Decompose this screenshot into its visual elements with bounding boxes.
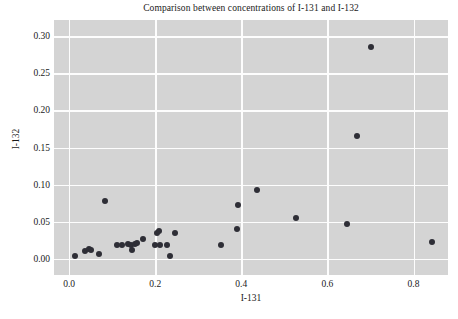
data-point (368, 44, 374, 50)
data-point (102, 198, 108, 204)
gridline-vertical (241, 20, 242, 275)
x-tick-label: 0.4 (221, 279, 261, 289)
chart-title: Comparison between concentrations of I-1… (54, 3, 448, 13)
data-point (157, 242, 163, 248)
x-tick-label: 0.6 (307, 279, 347, 289)
data-point (140, 236, 146, 242)
y-tick-label: 0.00 (6, 254, 50, 264)
data-point (234, 226, 240, 232)
x-axis-label: I-131 (54, 293, 448, 303)
x-axis-tick-labels: 0.00.20.40.60.8 (54, 279, 448, 293)
data-point (235, 202, 241, 208)
y-tick-label: 0.30 (6, 31, 50, 41)
data-point (119, 242, 125, 248)
data-point (429, 239, 435, 245)
gridline-horizontal (54, 259, 448, 260)
data-point (344, 221, 350, 227)
gridline-horizontal (54, 185, 448, 186)
plot-area (54, 20, 448, 275)
data-point (293, 215, 299, 221)
x-tick-label: 0.0 (49, 279, 89, 289)
y-tick-label: 0.10 (6, 180, 50, 190)
data-point (134, 240, 140, 246)
data-point (218, 242, 224, 248)
x-tick-label: 0.2 (135, 279, 175, 289)
gridline-horizontal (54, 73, 448, 74)
data-point (156, 228, 162, 234)
data-point (96, 251, 102, 257)
data-point (354, 133, 360, 139)
data-point (254, 187, 260, 193)
y-tick-label: 0.05 (6, 217, 50, 227)
data-point (164, 242, 170, 248)
gridline-vertical (414, 20, 415, 275)
data-point (167, 253, 173, 259)
gridline-horizontal (54, 110, 448, 111)
gridline-vertical (155, 20, 156, 275)
gridline-vertical (327, 20, 328, 275)
data-point (88, 247, 94, 253)
x-tick-label: 0.8 (394, 279, 434, 289)
scatter-plot-figure: Comparison between concentrations of I-1… (0, 0, 458, 319)
data-point (72, 253, 78, 259)
data-point (129, 247, 135, 253)
gridline-vertical (69, 20, 70, 275)
data-point (172, 230, 178, 236)
gridline-horizontal (54, 148, 448, 149)
gridline-horizontal (54, 222, 448, 223)
y-axis-label: I-132 (11, 109, 21, 169)
y-tick-label: 0.25 (6, 68, 50, 78)
gridline-horizontal (54, 36, 448, 37)
